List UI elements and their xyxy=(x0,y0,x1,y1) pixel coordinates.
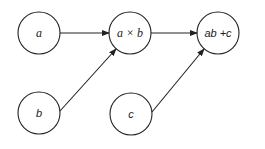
node-c-label: c xyxy=(110,108,152,120)
node-b-label: b xyxy=(18,107,60,119)
node-a-label: a xyxy=(18,26,60,41)
edge-b-to-axb xyxy=(60,49,116,111)
node-abc-label: ab +c xyxy=(197,27,239,39)
diagram-canvas xyxy=(0,0,265,149)
edge-c-to-abc xyxy=(152,49,204,112)
node-axb-label: a × b xyxy=(109,26,151,41)
